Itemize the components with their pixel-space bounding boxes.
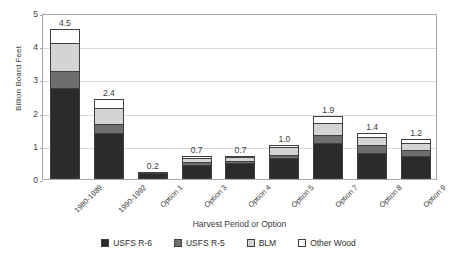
y-tick-label: 3	[22, 76, 38, 85]
legend-label: USFS R-6	[113, 238, 152, 248]
bar-group[interactable]: 1.0	[262, 15, 306, 179]
bar-stack[interactable]	[138, 172, 168, 179]
bar-segment-blm[interactable]	[313, 123, 343, 135]
x-tick-label: Option 9	[421, 183, 447, 209]
bar-stack[interactable]	[225, 156, 255, 179]
bar-segment-usfs-r-6[interactable]	[225, 163, 255, 179]
bar-total-label: 0.7	[235, 146, 247, 155]
bar-total-label: 1.2	[410, 129, 422, 138]
bar-segment-blm[interactable]	[94, 108, 124, 124]
x-tick-label: Option 1	[158, 183, 184, 209]
bar-segment-usfs-r-6[interactable]	[50, 88, 80, 179]
bar-group[interactable]: 0.7	[219, 15, 263, 179]
bar-segment-other-wood[interactable]	[50, 29, 80, 43]
bar-group[interactable]: 1.9	[306, 15, 350, 179]
bars-layer: 4.52.40.20.70.71.01.91.41.2	[43, 15, 436, 179]
bar-segment-usfs-r-6[interactable]	[94, 133, 124, 179]
legend-item[interactable]: BLM	[247, 238, 276, 248]
bar-group[interactable]: 1.2	[394, 15, 438, 179]
bar-total-label: 1.4	[366, 123, 378, 132]
bar-stack[interactable]	[94, 99, 124, 179]
legend-item[interactable]: USFS R-6	[101, 238, 152, 248]
legend-item[interactable]: USFS R-5	[174, 238, 225, 248]
bar-group[interactable]: 0.7	[175, 15, 219, 179]
bar-segment-blm[interactable]	[357, 137, 387, 146]
legend-label: BLM	[259, 238, 276, 248]
y-tick-label: 1	[22, 143, 38, 152]
bar-segment-blm[interactable]	[50, 43, 80, 71]
x-tick-label: 1980-1989	[72, 183, 104, 215]
bar-segment-other-wood[interactable]	[313, 116, 343, 123]
legend-label: Other Wood	[310, 238, 356, 248]
bar-segment-usfs-r-5[interactable]	[94, 124, 124, 133]
chart-container: Billion Board Feet 012345 4.52.40.20.70.…	[0, 0, 457, 266]
y-tick-label: 0	[22, 176, 38, 185]
bar-group[interactable]: 1.4	[350, 15, 394, 179]
bar-total-label: 0.7	[191, 146, 203, 155]
y-tick-label: 5	[22, 10, 38, 19]
bar-total-label: 1.0	[278, 135, 290, 144]
bar-stack[interactable]	[182, 156, 212, 179]
legend-item[interactable]: Other Wood	[298, 238, 356, 248]
bar-segment-usfs-r-6[interactable]	[269, 158, 299, 179]
x-tick-label: Option 5	[290, 183, 316, 209]
legend-swatch-icon	[247, 239, 255, 247]
bar-group[interactable]: 2.4	[87, 15, 131, 179]
y-axis-ticks: 012345	[20, 0, 38, 266]
bar-stack[interactable]	[401, 139, 431, 179]
bar-total-label: 4.5	[59, 19, 71, 28]
x-tick-label: Option 7	[334, 183, 360, 209]
bar-segment-other-wood[interactable]	[94, 99, 124, 108]
bar-segment-usfs-r-6[interactable]	[138, 173, 168, 179]
bar-segment-usfs-r-6[interactable]	[401, 156, 431, 179]
bar-segment-usfs-r-5[interactable]	[50, 71, 80, 88]
bar-stack[interactable]	[313, 116, 343, 179]
legend-swatch-icon	[101, 239, 109, 247]
bar-segment-blm[interactable]	[269, 147, 299, 155]
bar-segment-usfs-r-6[interactable]	[357, 153, 387, 179]
bar-segment-usfs-r-6[interactable]	[313, 143, 343, 179]
x-tick-label: Option 3	[202, 183, 228, 209]
legend-swatch-icon	[298, 239, 306, 247]
bar-stack[interactable]	[357, 133, 387, 179]
bar-stack[interactable]	[50, 29, 80, 179]
legend-swatch-icon	[174, 239, 182, 247]
x-tick-label: 1990-1992	[116, 183, 148, 215]
bar-segment-blm[interactable]	[401, 143, 431, 150]
x-tick-label: Option 4	[246, 183, 272, 209]
bar-segment-usfs-r-5[interactable]	[357, 145, 387, 153]
bar-group[interactable]: 4.5	[43, 15, 87, 179]
bar-total-label: 2.4	[103, 89, 115, 98]
x-tick-label: Option 8	[377, 183, 403, 209]
plot-area: 4.52.40.20.70.71.01.91.41.2	[42, 14, 437, 180]
chart-legend: USFS R-6USFS R-5BLMOther Wood	[0, 238, 457, 248]
y-tick-label: 4	[22, 43, 38, 52]
bar-group[interactable]: 0.2	[131, 15, 175, 179]
y-tick-label: 2	[22, 109, 38, 118]
bar-segment-usfs-r-5[interactable]	[313, 135, 343, 143]
legend-label: USFS R-5	[186, 238, 225, 248]
bar-segment-usfs-r-6[interactable]	[182, 165, 212, 179]
bar-total-label: 0.2	[147, 162, 159, 171]
bar-stack[interactable]	[269, 145, 299, 179]
x-axis-title: Harvest Period or Option	[42, 219, 437, 229]
bar-total-label: 1.9	[322, 106, 334, 115]
